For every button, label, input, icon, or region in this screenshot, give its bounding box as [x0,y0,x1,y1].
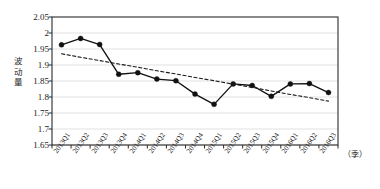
data-point-marker [97,42,102,47]
data-point-marker [173,78,178,83]
x-axis-unit-label: （季） [343,151,367,159]
data-point-marker [288,81,293,86]
y-axis-tick-label: 1.85 [20,77,49,86]
y-axis-tick-labels: 2.0521.951.91.851.81.751.71.65 [20,0,49,189]
y-axis-tick-label: 1.9 [20,61,49,70]
y-axis-tick-label: 2.05 [20,13,49,22]
y-axis-tick-label: 1.65 [20,141,49,150]
data-point-marker [116,72,121,77]
volatility-line-chart: 波 动 量 2.0521.951.91.851.81.751.71.65 201… [0,0,380,189]
data-point-marker [135,70,140,75]
y-axis-tick-label: 1.75 [20,109,49,118]
y-axis-tick-label: 2 [20,29,49,38]
data-point-marker [59,42,64,47]
data-point-marker [212,102,217,107]
data-point-marker [154,77,159,82]
data-point-marker [78,36,83,41]
data-point-marker [326,90,331,95]
data-point-marker [193,92,198,97]
plot-area [0,0,380,189]
y-axis-tick-label: 1.8 [20,93,49,102]
y-axis-tick-label: 1.7 [20,125,49,134]
data-point-marker [269,94,274,99]
y-axis-tick-label: 1.95 [20,45,49,54]
data-point-marker [307,81,312,86]
